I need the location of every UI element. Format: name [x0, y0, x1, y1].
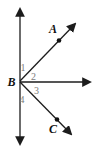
label-B: B [6, 75, 15, 89]
angle-label-3: 3 [34, 85, 39, 96]
angle-label-1: 1 [21, 62, 26, 73]
geometry-figure: A B C 1 2 3 4 [0, 0, 105, 152]
label-C: C [49, 122, 58, 136]
point-A-dot [57, 38, 62, 43]
angle-label-4: 4 [20, 94, 25, 105]
ray-BA [20, 24, 75, 81]
label-A: A [48, 22, 57, 36]
angle-label-2: 2 [31, 71, 36, 82]
geometry-canvas: A B C 1 2 3 4 [0, 0, 105, 152]
ray-BC [20, 82, 71, 134]
